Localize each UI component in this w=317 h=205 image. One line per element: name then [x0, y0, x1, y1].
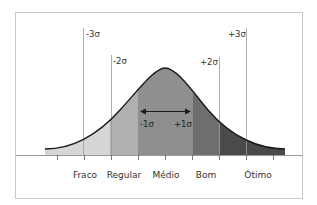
label-minus1-sigma: -1σ: [140, 119, 154, 129]
category-regular: Regular: [107, 170, 142, 180]
label-minus2-sigma: -2σ: [113, 56, 127, 66]
label-minus3-sigma: -3σ: [86, 29, 100, 39]
label-plus3-sigma: +3σ: [228, 29, 247, 39]
bell-curve-diagram: -3σ -2σ -1σ +1σ +2σ +3σ Fraco Regular Mé…: [0, 0, 317, 205]
category-bom: Bom: [196, 170, 216, 180]
category-otimo: Ótimo: [244, 169, 272, 180]
category-fraco: Fraco: [73, 170, 98, 180]
label-plus2-sigma: +2σ: [200, 57, 219, 67]
label-plus1-sigma: +1σ: [174, 119, 193, 129]
category-medio: Médio: [152, 170, 180, 180]
